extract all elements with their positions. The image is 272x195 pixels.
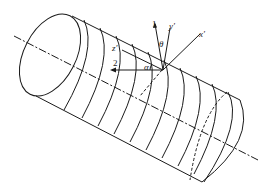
label-z-prime: z′ <box>111 43 119 53</box>
hidden-right-arc <box>190 92 227 180</box>
bottom-edge <box>36 96 202 182</box>
hidden-line <box>140 70 162 96</box>
z-prime-axis <box>122 50 163 70</box>
helix-rings <box>64 20 233 182</box>
label-1: 1 <box>152 19 157 29</box>
label-y-prime: y′ <box>168 21 176 31</box>
label-theta: θ <box>159 39 164 49</box>
cylinder-diagram: 1 2 y′ x′ z′ θ α <box>0 0 272 195</box>
arrowhead-2-icon <box>110 68 116 73</box>
right-end-arc <box>202 100 244 182</box>
label-2: 2 <box>113 58 118 68</box>
label-x-prime: x′ <box>198 29 206 39</box>
label-alpha: α <box>144 62 149 72</box>
left-end-ellipse <box>7 4 93 106</box>
cylinder-axis <box>14 36 258 160</box>
diagram-canvas: 1 2 y′ x′ z′ θ α <box>0 0 272 195</box>
